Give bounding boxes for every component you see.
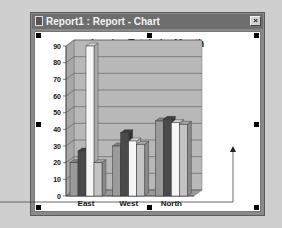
y-tick-label: 30 xyxy=(53,143,61,150)
x-category-label: North xyxy=(161,199,182,208)
y-tick-label: 60 xyxy=(53,93,61,100)
y-tick-label: 70 xyxy=(53,76,61,83)
bar xyxy=(155,121,163,196)
y-tick-label: 50 xyxy=(53,109,61,116)
bar xyxy=(113,146,121,196)
y-tick-label: 0 xyxy=(57,193,61,200)
bar xyxy=(86,46,94,196)
bar xyxy=(129,141,137,196)
bar xyxy=(171,123,179,196)
bar xyxy=(179,124,187,196)
y-tick-label: 90 xyxy=(53,43,61,50)
y-tick-label: 80 xyxy=(53,59,61,66)
x-category-label: East xyxy=(78,199,95,208)
bar xyxy=(121,133,129,196)
y-tick-label: 20 xyxy=(53,159,61,166)
bar xyxy=(163,119,171,196)
y-tick-label: 40 xyxy=(53,126,61,133)
bar-chart-plot: 0102030405060708090EastWestNorth xyxy=(0,0,282,228)
bar xyxy=(78,151,86,196)
bar xyxy=(137,144,145,196)
y-tick-label: 10 xyxy=(53,176,61,183)
bar xyxy=(94,163,102,196)
x-category-label: West xyxy=(119,199,138,208)
bar xyxy=(70,163,78,196)
